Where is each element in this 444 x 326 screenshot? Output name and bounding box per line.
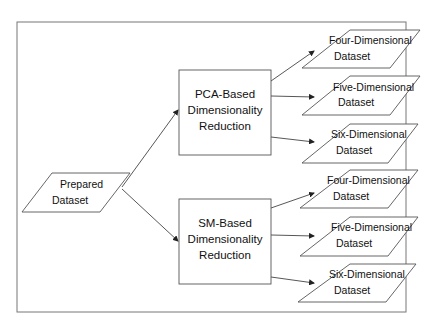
- edge-sm-to-five: [271, 235, 314, 236]
- output-sm-six: Six-Dimensional Dataset: [298, 264, 416, 302]
- output-pca-six: Six-Dimensional Dataset: [302, 124, 418, 163]
- output-label-line1: Five-Dimensional: [331, 221, 412, 233]
- pca-label-line2: Dimensionality: [188, 104, 263, 116]
- edge-input-to-sm: [122, 189, 178, 241]
- edge-input-to-pca: [122, 110, 178, 187]
- output-label-line1: Four-Dimensional: [327, 174, 410, 186]
- output-label-line2: Dataset: [338, 96, 374, 108]
- output-pca-five: Five-Dimensional Dataset: [302, 76, 420, 115]
- output-label-line2: Dataset: [336, 237, 372, 249]
- output-label-line1: Six-Dimensional: [331, 128, 407, 140]
- output-label-line2: Dataset: [334, 284, 370, 296]
- edge-sm-to-six: [271, 277, 314, 283]
- pca-label-line3: Reduction: [199, 120, 251, 132]
- output-label-line2: Dataset: [334, 50, 370, 62]
- sm-label-line1: SM-Based: [198, 217, 252, 229]
- output-label-line1: Six-Dimensional: [329, 268, 405, 280]
- sm-label-line2: Dimensionality: [188, 233, 263, 245]
- input-label-line1: Prepared: [60, 178, 103, 190]
- output-label-line1: Five-Dimensional: [333, 81, 414, 93]
- edge-pca-to-six: [271, 137, 314, 142]
- output-label-line2: Dataset: [336, 144, 372, 156]
- output-pca-four: Four-Dimensional Dataset: [302, 30, 420, 68]
- output-label-line2: Dataset: [333, 190, 369, 202]
- sm-label-line3: Reduction: [199, 249, 251, 261]
- input-label-line2: Dataset: [52, 194, 88, 206]
- sm-reduction-box: SM-Based Dimensionality Reduction: [179, 199, 271, 284]
- pca-label-line1: PCA-Based: [195, 88, 255, 100]
- pca-reduction-box: PCA-Based Dimensionality Reduction: [179, 70, 271, 155]
- edge-pca-to-five: [271, 96, 314, 97]
- flowchart-canvas: Prepared Dataset PCA-Based Dimensionalit…: [0, 0, 444, 326]
- input-prepared-dataset: Prepared Dataset: [22, 173, 130, 212]
- output-label-line1: Four-Dimensional: [329, 34, 412, 46]
- output-sm-four: Four-Dimensional Dataset: [300, 170, 418, 208]
- output-sm-five: Five-Dimensional Dataset: [300, 217, 418, 256]
